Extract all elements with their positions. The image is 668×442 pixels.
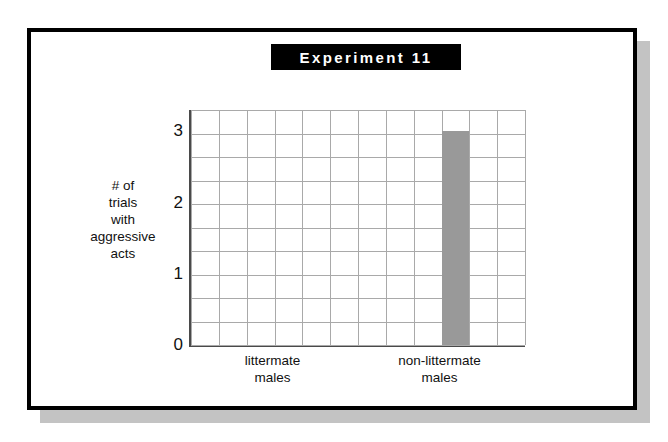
grid-line-horizontal [191,345,525,346]
x-tick-label-line: non-littermate [398,352,481,369]
x-axis-tick-labels: littermatemalesnon-littermatemales [189,352,525,396]
chart-title: Experiment 11 [300,50,433,65]
x-tick-label-line: littermate [245,352,301,369]
plot-area [189,110,525,347]
chart-title-banner: Experiment 11 [271,44,461,70]
bar-series [191,110,525,345]
x-tick-label: non-littermatemales [398,352,481,386]
y-tick-label: 0 [157,335,183,355]
y-tick-label: 3 [157,121,183,141]
x-tick-label-line: males [245,369,301,386]
y-tick-label: 2 [157,193,183,213]
x-tick-label: littermatemales [245,352,301,386]
x-tick-label-line: males [398,369,481,386]
figure-frame: Experiment 11 # of trials with aggressiv… [27,28,637,410]
y-axis-tick-labels: 0123 [153,110,183,347]
grid-line-vertical [525,110,526,345]
bar [442,131,470,345]
y-tick-label: 1 [157,264,183,284]
